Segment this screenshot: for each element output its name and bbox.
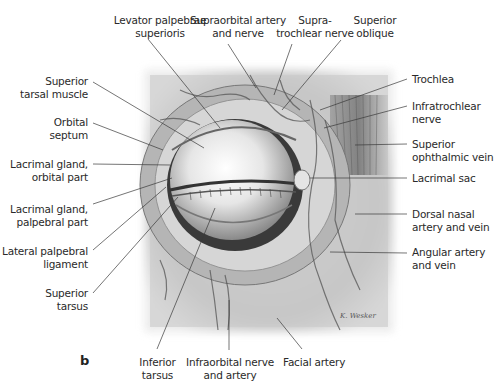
label-facial-artery: Facial artery: [283, 356, 345, 369]
label-lacrimal-gland-palpebral: Lacrimal gland, palpebral part: [0, 203, 88, 229]
eye-illustration: K. Wesker: [0, 0, 503, 388]
label-orbital-septum: Orbital septum: [0, 116, 88, 142]
panel-letter: b: [80, 353, 89, 368]
label-lateral-palpebral-ligament: Lateral palpebral ligament: [0, 245, 88, 271]
label-superior-oblique: Superior oblique: [345, 14, 405, 40]
label-superior-ophthalmic-vein: Superior ophthalmic vein: [412, 138, 493, 164]
label-superior-tarsus: Superior tarsus: [0, 287, 88, 313]
artist-signature: K. Wesker: [339, 312, 376, 320]
label-angular-artery-vein: Angular artery and vein: [412, 246, 485, 272]
label-trochlea: Trochlea: [412, 73, 454, 86]
label-infratrochlear-nerve: Infratrochlear nerve: [412, 100, 481, 126]
label-dorsal-nasal-artery-vein: Dorsal nasal artery and vein: [412, 208, 490, 234]
label-infraorbital-nerve-artery: Infraorbital nerve and artery: [185, 356, 275, 382]
label-inferior-tarsus: Inferior tarsus: [130, 356, 185, 382]
anatomical-illustration-eyelid: K. Wesker Levator palpebrae superioris S: [0, 0, 503, 388]
label-superior-tarsal-muscle: Superior tarsal muscle: [0, 75, 88, 101]
label-lacrimal-sac: Lacrimal sac: [412, 172, 476, 185]
label-lacrimal-gland-orbital: Lacrimal gland, orbital part: [0, 158, 88, 184]
